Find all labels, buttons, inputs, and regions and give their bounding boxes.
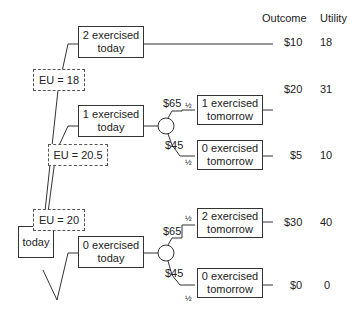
chance-2-high: $65: [163, 225, 181, 237]
utility-value: 0: [324, 279, 330, 291]
decision-line2: today: [98, 42, 125, 55]
outcome-value: $20: [284, 83, 302, 95]
outcome-node-2-tomorrow: 2 exercised tomorrow: [197, 208, 263, 238]
outcome-node-0-tomorrow-a: 0 exercised tomorrow: [197, 140, 263, 170]
chance-1-p-low: ½: [185, 158, 192, 167]
outcome-value: $5: [290, 149, 302, 161]
decision-node-0-exercised: 0 exercised today: [78, 236, 144, 268]
decision-line1: 0 exercised: [83, 239, 139, 252]
utility-header: Utility: [320, 12, 347, 24]
outcome-value: $0: [290, 279, 302, 291]
decision-node-2-exercised: 2 exercised today: [78, 26, 144, 58]
utility-value: 10: [320, 149, 332, 161]
outcome-line1: 0 exercised: [202, 142, 258, 155]
outcome-line2: tomorrow: [207, 223, 253, 236]
decision-line2: today: [98, 252, 125, 265]
decision-node-1-exercised: 1 exercised today: [78, 105, 144, 137]
utility-value: 18: [320, 36, 332, 48]
chance-2-p-high: ½: [185, 214, 192, 223]
outcome-value: $30: [284, 216, 302, 228]
outcome-line1: 2 exercised: [202, 210, 258, 223]
outcome-line1: 0 exercised: [202, 270, 258, 283]
eu-label-3: EU = 20: [33, 209, 85, 231]
utility-value: 40: [320, 216, 332, 228]
outcome-line2: tomorrow: [207, 155, 253, 168]
outcome-node-1-tomorrow: 1 exercised tomorrow: [197, 95, 263, 125]
eu-label-2: EU = 20.5: [48, 144, 108, 166]
chance-2-low: $45: [165, 267, 183, 279]
decision-line2: today: [98, 121, 125, 134]
outcome-line2: tomorrow: [207, 283, 253, 296]
decision-line1: 1 exercised: [83, 108, 139, 121]
decision-line1: 2 exercised: [83, 29, 139, 42]
outcome-node-0-tomorrow-b: 0 exercised tomorrow: [197, 268, 263, 298]
outcome-line2: tomorrow: [207, 110, 253, 123]
chance-1-p-high: ½: [185, 101, 192, 110]
chance-2-p-low: ½: [185, 294, 192, 303]
root-label: today: [23, 236, 50, 249]
outcome-header: Outcome: [262, 12, 307, 24]
outcome-value: $10: [284, 36, 302, 48]
eu-label-1: EU = 18: [33, 69, 85, 91]
chance-1-high: $65: [163, 97, 181, 109]
outcome-line1: 1 exercised: [202, 97, 258, 110]
utility-value: 31: [320, 83, 332, 95]
chance-1-low: $45: [165, 139, 183, 151]
